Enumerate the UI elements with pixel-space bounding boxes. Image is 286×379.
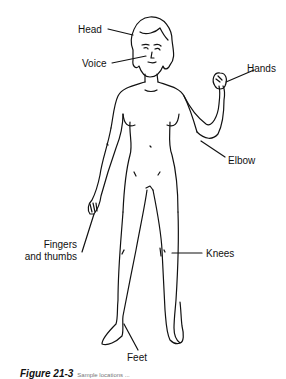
label-knees: Knees <box>206 248 234 259</box>
label-feet: Feet <box>127 352 147 363</box>
caption-prefix: Figure 21-3 <box>20 368 73 379</box>
caption-text: Sample locations ... <box>77 372 129 378</box>
label-head: Head <box>78 24 102 35</box>
label-voice: Voice <box>82 58 106 69</box>
label-hands: Hands <box>247 63 276 74</box>
figure-caption: Figure 21-3Sample locations ... <box>20 368 130 379</box>
label-fingers: Fingers <box>30 239 77 250</box>
label-thumbs: and thumbs <box>10 251 77 262</box>
label-elbow: Elbow <box>228 155 255 166</box>
